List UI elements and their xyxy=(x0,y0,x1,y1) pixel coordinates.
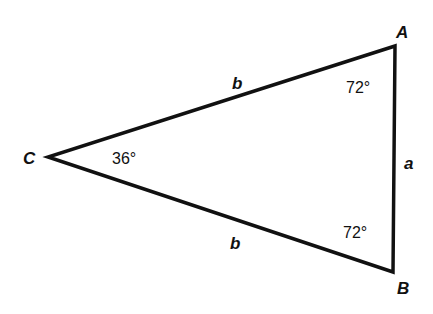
triangle-diagram: A B C b b a 72° 72° 36° xyxy=(0,0,433,314)
side-label-cb: b xyxy=(230,234,240,253)
angle-label-b: 72° xyxy=(343,224,367,241)
side-label-ab: a xyxy=(404,154,413,173)
vertex-label-a: A xyxy=(395,23,408,42)
side-label-ca: b xyxy=(232,74,242,93)
triangle-canvas: A B C b b a 72° 72° 36° xyxy=(0,0,433,314)
angle-label-c: 36° xyxy=(112,150,136,167)
angle-label-a: 72° xyxy=(346,79,370,96)
vertex-label-c: C xyxy=(23,149,36,168)
vertex-label-b: B xyxy=(397,279,409,298)
